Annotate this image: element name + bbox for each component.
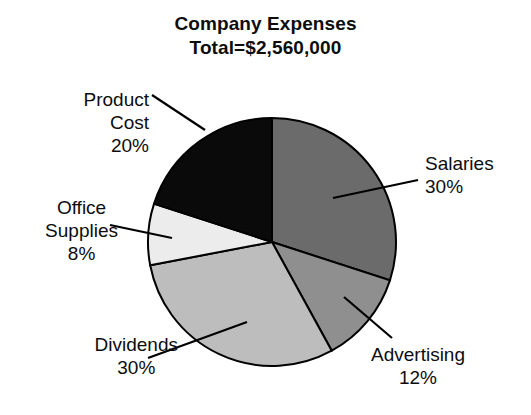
pie-slices-group (148, 118, 396, 366)
slice-label-dividends: Dividends 30% (95, 333, 178, 379)
slice-label-product-cost-name-line1: Product (84, 88, 149, 111)
slice-label-salaries-percent: 30% (425, 175, 494, 198)
slice-label-advertising-percent: 12% (371, 366, 465, 389)
slice-label-product-cost: Product Cost 20% (84, 88, 149, 157)
leader-line-product-cost (152, 95, 205, 130)
pie-chart-figure: Company Expenses Total=$2,560,000 Produc… (0, 0, 531, 415)
slice-label-advertising-name: Advertising (371, 343, 465, 366)
slice-label-dividends-name: Dividends (95, 333, 178, 356)
slice-label-salaries: Salaries 30% (425, 152, 494, 198)
slice-label-product-cost-name-line2: Cost (84, 111, 149, 134)
slice-label-salaries-name: Salaries (425, 152, 494, 175)
slice-label-office-supplies-name-line2: Supplies (45, 219, 118, 242)
slice-label-office-supplies-name-line1: Office (45, 196, 118, 219)
slice-label-dividends-percent: 30% (95, 356, 178, 379)
slice-label-advertising: Advertising 12% (371, 343, 465, 389)
slice-label-office-supplies: Office Supplies 8% (45, 196, 118, 265)
slice-label-product-cost-percent: 20% (84, 134, 149, 157)
slice-label-office-supplies-percent: 8% (45, 242, 118, 265)
